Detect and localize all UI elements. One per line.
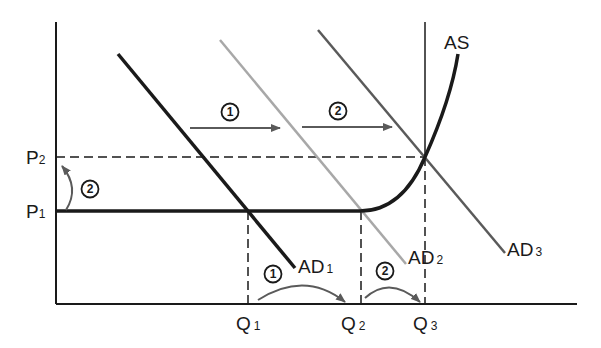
label-ad2: AD2 (408, 247, 443, 268)
step-marker-quantity-1: 1 (265, 266, 282, 283)
step-marker-shift-1: 1 (222, 104, 239, 121)
svg-text:2: 2 (87, 182, 94, 196)
label-ad3: AD3 (507, 239, 542, 260)
svg-text:2: 2 (335, 104, 342, 118)
label-q3: Q3 (413, 313, 438, 334)
svg-text:1: 1 (227, 105, 234, 119)
label-as: AS (444, 32, 469, 53)
svg-text:2: 2 (382, 264, 389, 278)
quantity-arrow-2 (365, 287, 420, 302)
step-marker-shift-2: 2 (330, 103, 347, 120)
label-ad1: AD1 (298, 256, 333, 277)
label-p1: P1 (26, 201, 46, 222)
label-p2: P2 (26, 147, 46, 168)
ad-as-diagram: 1 2 2 1 2 P2 P1 Q1 Q2 Q3 AS AD1 AD2 AD3 (0, 0, 601, 348)
quantity-arrow-1 (258, 285, 345, 302)
step-marker-quantity-2: 2 (377, 263, 394, 280)
ad1-curve (118, 54, 295, 268)
step-marker-price-2: 2 (82, 181, 99, 198)
as-curve (56, 54, 458, 211)
price-rise-arrow (62, 166, 72, 210)
svg-text:1: 1 (270, 267, 277, 281)
label-q1: Q1 (236, 313, 261, 334)
label-q2: Q2 (341, 313, 366, 334)
ad3-curve (318, 30, 505, 253)
